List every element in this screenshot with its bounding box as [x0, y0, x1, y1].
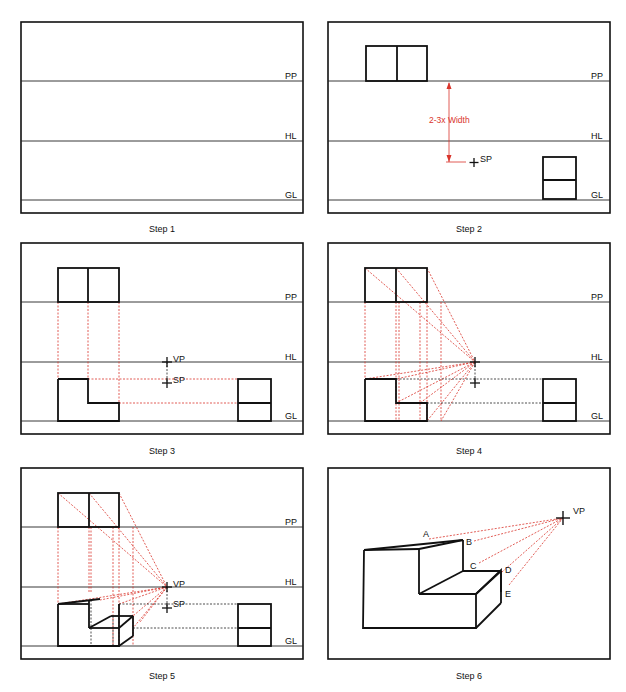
panel-frame — [328, 468, 610, 659]
panel-step-2: PP HL GL 2-3x Width SP Step 2 — [328, 22, 610, 234]
step-caption: Step 5 — [149, 671, 175, 681]
sp-label: SP — [480, 154, 492, 164]
side-elevation — [238, 379, 271, 421]
sp-label: SP — [173, 599, 185, 609]
front-elevation — [58, 379, 119, 421]
pp-label: PP — [285, 71, 297, 81]
gl-label: GL — [285, 636, 297, 646]
distance-dimension: 2-3x Width — [429, 82, 470, 162]
step-caption: Step 3 — [149, 446, 175, 456]
pp-label: PP — [285, 517, 297, 527]
panel-step-3: PP HL GL VP SP Step 3 — [21, 243, 303, 456]
point-label-b: B — [466, 537, 472, 547]
point-label-c: C — [470, 561, 477, 571]
step-caption: Step 2 — [456, 224, 482, 234]
step-caption: Step 4 — [456, 446, 482, 456]
panel-step-1: PP HL GL Step 1 — [21, 22, 303, 234]
panel-step-4: PP HL GL — [328, 243, 610, 456]
hl-label: HL — [285, 577, 297, 587]
hl-label: HL — [591, 352, 603, 362]
hl-label: HL — [591, 131, 603, 141]
station-point-marker — [470, 378, 480, 388]
hl-label: HL — [285, 131, 297, 141]
vanishing-point-marker — [556, 511, 570, 525]
gl-label: GL — [285, 190, 297, 200]
sp-label: SP — [173, 375, 185, 385]
side-elevation — [238, 604, 271, 646]
vp-label: VP — [173, 579, 185, 589]
station-point-marker — [470, 158, 479, 167]
panel-frame — [21, 243, 303, 434]
panel-frame — [21, 22, 303, 213]
hl-label: HL — [285, 352, 297, 362]
step-caption: Step 6 — [456, 671, 482, 681]
perspective-object — [363, 540, 501, 628]
side-elevation — [543, 379, 576, 421]
panel-step-5: PP HL GL — [21, 468, 303, 681]
step-caption: Step 1 — [149, 224, 175, 234]
vanishing-point-marker — [470, 357, 480, 367]
pp-label: PP — [591, 71, 603, 81]
point-label-a: A — [423, 529, 429, 539]
pp-label: PP — [591, 292, 603, 302]
perspective-steps-diagram: PP HL GL Step 1 PP HL GL 2-3x Width SP — [0, 0, 626, 692]
vanishing-point-marker — [162, 357, 172, 367]
gl-label: GL — [591, 190, 603, 200]
side-elevation — [543, 157, 576, 199]
point-label-e: E — [505, 589, 511, 599]
station-point-marker — [162, 378, 172, 388]
panel-frame — [21, 468, 303, 659]
vp-label: VP — [573, 506, 585, 516]
gl-label: GL — [591, 411, 603, 421]
perspective-object — [58, 599, 133, 646]
pp-label: PP — [285, 292, 297, 302]
panel-frame — [328, 243, 610, 434]
point-label-d: D — [505, 565, 512, 575]
gl-label: GL — [285, 411, 297, 421]
vp-label: VP — [173, 354, 185, 364]
distance-note: 2-3x Width — [429, 115, 470, 125]
station-point-marker — [162, 603, 172, 613]
panel-step-6: VP A B C D E Step 6 — [328, 468, 610, 681]
